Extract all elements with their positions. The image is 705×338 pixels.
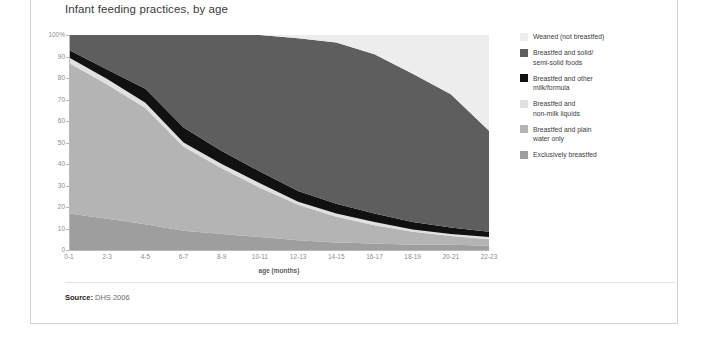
- x-axis-tick-label: 2-3: [102, 254, 111, 261]
- y-axis-tick-mark: [66, 164, 69, 165]
- x-axis-tick-label: 14-15: [328, 254, 345, 261]
- y-axis-tick-label: 20: [58, 204, 65, 211]
- y-axis-tick-mark: [66, 78, 69, 79]
- source-note: Source: DHS 2006: [65, 293, 130, 302]
- legend-item-label: Breastfed and plain water only: [533, 125, 592, 144]
- legend-item[interactable]: Breastfed and other milk/formula: [520, 74, 680, 93]
- y-axis-tick-mark: [66, 35, 69, 36]
- y-axis-tick-mark: [66, 100, 69, 101]
- y-axis-tick-mark: [66, 143, 69, 144]
- stacked-area-svg: [69, 35, 489, 250]
- y-axis-tick-mark: [66, 186, 69, 187]
- y-axis-tick-label: 80: [58, 75, 65, 82]
- legend-item-label: Breastfed and other milk/formula: [533, 74, 593, 93]
- source-divider: [65, 282, 675, 283]
- y-axis-tick-label: 10: [58, 225, 65, 232]
- y-axis-tick-mark: [66, 207, 69, 208]
- x-axis-label: age (months): [69, 267, 489, 274]
- legend-swatch-icon: [520, 125, 528, 133]
- x-axis-tick-label: 8-9: [217, 254, 226, 261]
- y-axis-tick-label: 60: [58, 118, 65, 125]
- y-axis-tick-mark: [66, 57, 69, 58]
- x-axis-tick-label: 20-21: [443, 254, 460, 261]
- chart-plot-wrapper: 0102030405060708090100% 0-12-34-56-78-91…: [69, 35, 489, 250]
- legend-swatch-icon: [520, 74, 528, 82]
- y-axis-line: [69, 35, 70, 250]
- legend-swatch-icon: [520, 49, 528, 57]
- legend-item[interactable]: Breastfed and plain water only: [520, 125, 680, 144]
- x-axis-tick-label: 16-17: [366, 254, 383, 261]
- page-title: Infant feeding practices, by age: [65, 3, 228, 15]
- chart-screenshot-root: Infant feeding practices, by age 0102030…: [0, 0, 705, 338]
- x-axis-tick-label: 22-23: [481, 254, 498, 261]
- legend-item[interactable]: Exclusively breastfed: [520, 150, 680, 160]
- y-axis-tick-mark: [66, 121, 69, 122]
- legend-item[interactable]: Breastfed and solid/ semi-solid foods: [520, 48, 680, 67]
- legend-item[interactable]: Breastfed and non-milk liquids: [520, 99, 680, 118]
- y-axis-tick-mark: [66, 229, 69, 230]
- x-axis-tick-label: 18-19: [404, 254, 421, 261]
- chart-card: Infant feeding practices, by age 0102030…: [30, 0, 678, 324]
- y-axis-tick-label: 30: [58, 182, 65, 189]
- x-axis-tick-label: 6-7: [179, 254, 188, 261]
- y-axis-tick-label: 40: [58, 161, 65, 168]
- x-axis-tick-label: 12-13: [290, 254, 307, 261]
- chart-legend: Weaned (not breastfed)Breastfed and soli…: [520, 32, 680, 166]
- y-axis-tick-label: 70: [58, 96, 65, 103]
- legend-item-label: Breastfed and non-milk liquids: [533, 99, 580, 118]
- x-axis-line: [69, 250, 489, 251]
- x-axis-tick-label: 0-1: [64, 254, 73, 261]
- legend-item-label: Exclusively breastfed: [533, 150, 597, 160]
- legend-swatch-icon: [520, 151, 528, 159]
- source-label: Source:: [65, 293, 93, 302]
- y-axis-tick-label: 100%: [48, 32, 65, 39]
- legend-item-label: Breastfed and solid/ semi-solid foods: [533, 48, 593, 67]
- legend-swatch-icon: [520, 33, 528, 41]
- x-axis-tick-label: 10-11: [252, 254, 268, 261]
- source-value: DHS 2006: [93, 293, 130, 302]
- legend-swatch-icon: [520, 100, 528, 108]
- y-axis-tick-label: 50: [58, 139, 65, 146]
- x-axis-tick-label: 4-5: [141, 254, 150, 261]
- y-axis-tick-mark: [66, 250, 69, 251]
- legend-item[interactable]: Weaned (not breastfed): [520, 32, 680, 42]
- stacked-area-plot: [69, 35, 489, 250]
- y-axis-tick-label: 90: [58, 53, 65, 60]
- legend-item-label: Weaned (not breastfed): [533, 32, 604, 42]
